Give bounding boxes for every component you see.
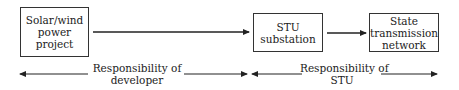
responsibility-line: Responsibility of [92,62,182,74]
node-label-line: STU [260,21,315,33]
node-label-line: transmission [370,27,438,39]
responsibility-line: developer [92,74,182,86]
node-label-line: Solar/wind [26,14,84,26]
responsibility-developer-label: Responsibility of developer [92,62,182,86]
node-solar-wind-project: Solar/wind power project [20,7,89,57]
node-stu-substation: STU substation [253,13,323,52]
responsibility-line: Responsibility of [300,62,384,74]
node-label-line: power [26,26,84,38]
node-label-line: project [26,38,84,50]
responsibility-line: STU [300,74,384,86]
responsibility-stu-label: Responsibility of STU [300,62,384,86]
node-label-line: network [370,39,438,51]
node-label-line: State [370,15,438,27]
node-state-transmission-network: State transmission network [369,13,439,52]
node-label-line: substation [260,33,315,45]
